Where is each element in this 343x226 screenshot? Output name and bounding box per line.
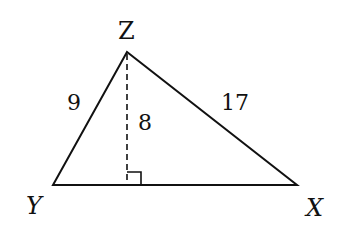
- right-angle-marker: [127, 172, 141, 185]
- vertex-label-z: Z: [118, 17, 135, 45]
- triangle-diagram: Z Y X 9 8 17: [0, 0, 343, 226]
- altitude-label: 8: [138, 110, 152, 135]
- triangle-xyz: [53, 52, 297, 185]
- vertex-label-x: X: [304, 194, 324, 222]
- side-label-zx: 17: [221, 90, 249, 115]
- side-label-yz: 9: [67, 90, 81, 115]
- vertex-label-y: Y: [26, 192, 44, 220]
